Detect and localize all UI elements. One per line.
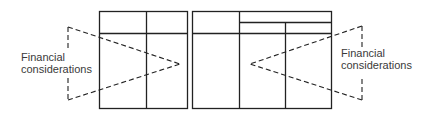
right-label-line2: considerations — [341, 59, 412, 71]
right-label-line1: Financial — [341, 47, 412, 59]
left-label-line2: considerations — [21, 63, 92, 75]
right-financial-considerations-label: Financial considerations — [341, 47, 412, 71]
left-table-box — [100, 12, 188, 109]
left-label-line1: Financial — [21, 51, 92, 63]
left-financial-considerations-label: Financial considerations — [21, 51, 92, 75]
